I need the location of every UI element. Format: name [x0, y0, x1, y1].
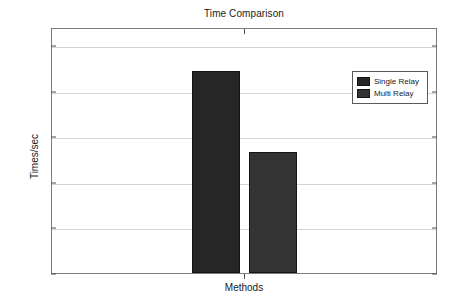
x-axis-label: Methods — [51, 282, 437, 293]
y-axis-tick-mark — [51, 46, 56, 47]
bar-multi-relay — [249, 152, 297, 273]
x-axis-tick-mark-top — [244, 29, 245, 34]
y-axis-tick-mark — [51, 182, 56, 183]
legend-swatch — [357, 89, 370, 98]
y-axis-tick-mark — [51, 137, 56, 138]
chart-figure: Time Comparison 0510152025 Times/sec Met… — [0, 0, 452, 307]
legend-label: Single Relay — [374, 78, 419, 86]
y-axis-label: Times/sec — [29, 97, 40, 217]
gridline — [52, 229, 436, 230]
y-axis-tick-mark-right — [432, 137, 437, 138]
bar-single-relay — [192, 71, 240, 273]
chart-legend: Single RelayMulti Relay — [352, 71, 428, 104]
gridline — [52, 47, 436, 48]
y-axis-tick-mark — [51, 274, 56, 275]
y-axis-tick-mark-right — [432, 228, 437, 229]
y-axis-tick-mark-right — [432, 182, 437, 183]
chart-title: Time Comparison — [51, 8, 437, 19]
gridline — [52, 184, 436, 185]
legend-entry: Multi Relay — [357, 88, 423, 99]
plot-area — [51, 28, 437, 274]
gridline — [52, 138, 436, 139]
legend-entry: Single Relay — [357, 76, 423, 87]
y-axis-tick-mark-right — [432, 274, 437, 275]
y-axis-tick-mark — [51, 91, 56, 92]
legend-label: Multi Relay — [374, 90, 414, 98]
y-axis-tick-mark-right — [432, 46, 437, 47]
legend-swatch — [357, 77, 370, 86]
x-axis-tick-mark — [244, 274, 245, 279]
y-axis-tick-mark-right — [432, 91, 437, 92]
y-axis-tick-mark — [51, 228, 56, 229]
